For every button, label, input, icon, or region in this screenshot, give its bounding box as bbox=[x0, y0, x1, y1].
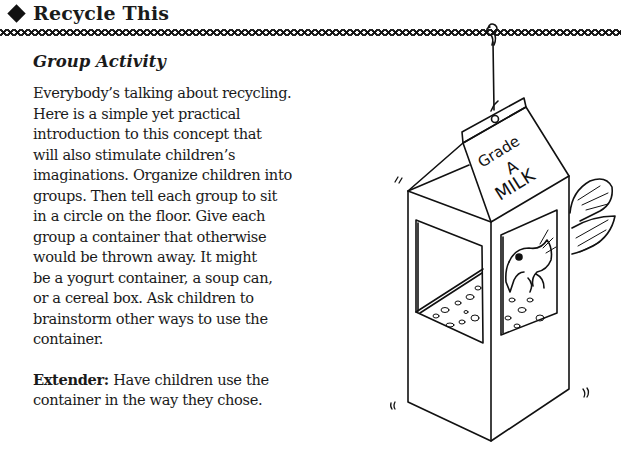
line: groups. Then tell each group to sit bbox=[33, 187, 277, 204]
carton-label-grade: Grade bbox=[475, 132, 523, 172]
diamond-icon bbox=[7, 4, 25, 22]
carton-label-milk: MILK bbox=[491, 163, 539, 204]
line: group a container that otherwise bbox=[33, 228, 266, 245]
line: Everybody’s talking about recycling. bbox=[33, 84, 291, 101]
bird bbox=[506, 230, 556, 292]
carton-label-a: A bbox=[502, 156, 521, 178]
activity-description: Everybody’s talking about recycling. Her… bbox=[33, 83, 323, 350]
hanging-string bbox=[493, 42, 494, 110]
line: container. bbox=[33, 330, 103, 347]
line: will also stimulate children’s bbox=[33, 146, 235, 163]
seeds-right bbox=[505, 298, 544, 328]
right-window bbox=[501, 210, 557, 335]
line: Here is a simple yet practical bbox=[33, 105, 240, 122]
bird-wing bbox=[570, 179, 615, 254]
decorative-divider bbox=[0, 29, 621, 36]
extender-note: Extender: Have children use the containe… bbox=[33, 370, 323, 411]
subheading: Group Activity bbox=[33, 52, 323, 71]
line: or a cereal box. Ask children to bbox=[33, 289, 254, 306]
seeds-left bbox=[433, 286, 481, 327]
line: introduction to this concept that bbox=[33, 125, 262, 142]
carton-body bbox=[408, 176, 569, 441]
worksheet-page: Recycle This Group Activity Everybody’s … bbox=[0, 0, 633, 474]
line: would be thrown away. It might bbox=[33, 248, 257, 265]
section-header: Recycle This bbox=[6, 2, 169, 24]
page-title: Recycle This bbox=[33, 2, 169, 24]
extender-label: Extender: bbox=[33, 371, 109, 388]
line: be a yogurt container, a soup can, bbox=[33, 269, 273, 286]
carton-top bbox=[462, 98, 526, 143]
line: brainstorm other ways to use the bbox=[33, 310, 268, 327]
activity-content: Group Activity Everybody’s talking about… bbox=[33, 52, 323, 411]
line: in a circle on the floor. Give each bbox=[33, 207, 265, 224]
line: imaginations. Organize children into bbox=[33, 166, 292, 183]
left-window bbox=[416, 220, 483, 343]
